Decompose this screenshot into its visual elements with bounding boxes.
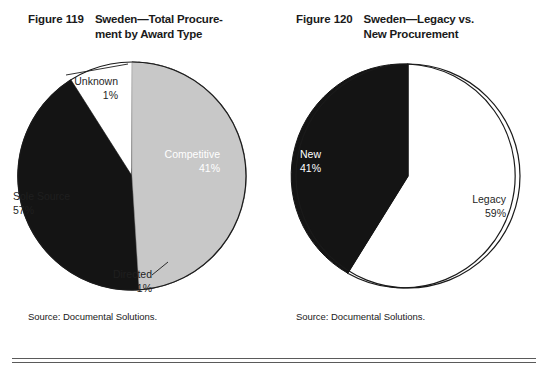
- bottom-divider-line-2: [12, 362, 536, 363]
- pie-chart-legacy-new: New 41% Legacy 59%: [274, 48, 548, 298]
- figure-119-heading: Figure 119 Sweden—Total Procure- ment by…: [28, 12, 264, 42]
- pie-label-competitive-value: 41%: [199, 162, 220, 174]
- pie-label-sole-source-name: Sole Source: [13, 190, 70, 202]
- figure-120-title-line1: Sweden—Legacy vs.: [364, 13, 474, 25]
- pie-chart-legacy-new-svg: New 41% Legacy 59%: [274, 48, 548, 298]
- figure-120-heading: Figure 120 Sweden—Legacy vs. New Procure…: [296, 12, 538, 42]
- pie-label-new-name: New: [300, 148, 321, 160]
- pie-label-directed-value: 1%: [137, 282, 152, 294]
- figure-119-title: Sweden—Total Procure- ment by Award Type: [95, 12, 223, 42]
- pie-label-legacy-value: 59%: [485, 207, 506, 219]
- pie-label-new-value: 41%: [300, 162, 321, 174]
- pie-label-directed-name: Directed: [113, 268, 152, 280]
- bottom-divider: [12, 358, 536, 366]
- figure-119-title-line1: Sweden—Total Procure-: [95, 13, 223, 25]
- figure-panel-120: Figure 120 Sweden—Legacy vs. New Procure…: [274, 0, 548, 377]
- figure-119-title-line2: ment by Award Type: [95, 28, 202, 40]
- pie-label-legacy-name: Legacy: [472, 193, 507, 205]
- figure-page: Figure 119 Sweden—Total Procure- ment by…: [0, 0, 548, 377]
- pie-label-unknown-name: Unknown: [74, 75, 118, 87]
- figure-120-number: Figure 120: [296, 12, 353, 27]
- figure-119-source: Source: Documental Solutions.: [28, 310, 157, 323]
- pie-label-sole-source-value: 57%: [13, 204, 34, 216]
- bottom-divider-line-1: [12, 358, 536, 359]
- pie-chart-award-type-svg: Unknown 1% Competitive 41% Sole Source 5…: [0, 48, 274, 298]
- pie-label-unknown-value: 1%: [103, 89, 118, 101]
- figure-119-number: Figure 119: [28, 12, 84, 27]
- figure-120-source: Source: Documental Solutions.: [296, 310, 425, 323]
- pie-slice-unknown: [132, 62, 246, 290]
- figure-120-title: Sweden—Legacy vs. New Procurement: [364, 12, 474, 42]
- pie-label-competitive-name: Competitive: [165, 148, 221, 160]
- leader-line-unknown: [66, 64, 128, 75]
- pie-chart-award-type: Unknown 1% Competitive 41% Sole Source 5…: [0, 48, 274, 298]
- figure-120-title-line2: New Procurement: [364, 28, 459, 40]
- figure-panel-119: Figure 119 Sweden—Total Procure- ment by…: [0, 0, 274, 377]
